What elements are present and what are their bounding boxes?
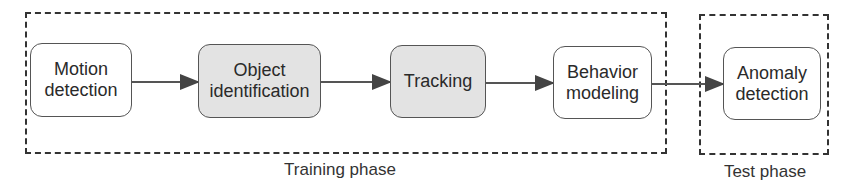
tracking-node: Tracking xyxy=(390,45,486,118)
anomaly-detection-node: Anomaly detection xyxy=(723,47,821,120)
motion-detection-node: Motion detection xyxy=(30,43,132,117)
behavior-modeling-node: Behavior modeling xyxy=(553,46,652,119)
object-identification-node: Object identification xyxy=(198,44,321,118)
